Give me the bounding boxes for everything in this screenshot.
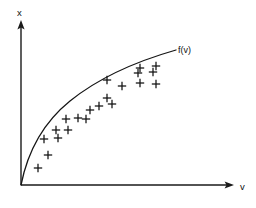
data-point-marker: [44, 151, 52, 159]
data-point-marker: [103, 94, 111, 102]
data-point-marker: [136, 64, 144, 72]
data-point-marker: [54, 134, 62, 142]
data-point-marker: [34, 164, 42, 172]
data-point-marker: [64, 126, 72, 134]
data-point-marker: [40, 135, 48, 143]
plot-canvas: x v f(v): [0, 0, 256, 208]
data-point-marker: [103, 76, 111, 84]
scatter-plot-figure: x v f(v): [0, 0, 256, 208]
data-point-marker: [74, 114, 82, 122]
y-axis-label: x: [17, 7, 22, 18]
data-point-marker: [134, 69, 142, 77]
data-point-marker: [95, 102, 103, 110]
y-axis-group: [17, 20, 24, 185]
x-axis-group: [21, 181, 234, 188]
curve-label: f(v): [178, 45, 191, 55]
data-point-marker: [108, 100, 116, 108]
x-axis-label: v: [240, 181, 245, 192]
data-point-marker: [86, 106, 94, 114]
data-point-marker: [82, 115, 90, 123]
data-point-marker: [62, 115, 70, 123]
data-point-marker: [152, 80, 160, 88]
data-point-marker: [118, 82, 126, 90]
data-point-marker: [136, 79, 144, 87]
data-point-marker: [52, 126, 60, 134]
